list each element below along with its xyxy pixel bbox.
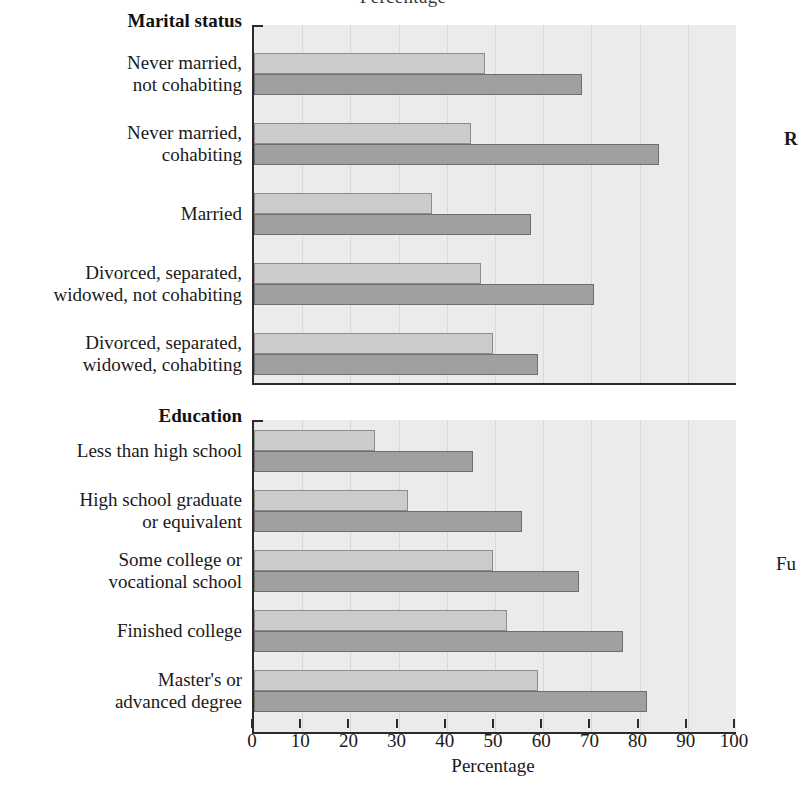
axis-tick-label: 100 — [704, 730, 764, 752]
bar-group — [254, 53, 736, 95]
category-label: Finished college — [0, 620, 242, 642]
category-label-line: Finished college — [0, 620, 242, 642]
bar-light — [254, 193, 432, 214]
category-label: Divorced, separated,widowed, not cohabit… — [0, 262, 242, 306]
axis-tick — [444, 719, 446, 728]
bar-light — [254, 263, 481, 284]
category-label-line: Master's or — [0, 669, 242, 691]
panel-heading-marital-status: Marital status — [0, 10, 242, 32]
bar-dark — [254, 631, 623, 652]
top-title-partial: Percentage — [0, 0, 806, 8]
bar-light — [254, 333, 493, 354]
bar-group — [254, 333, 736, 375]
bar-light — [254, 123, 471, 144]
category-label: Never married,cohabiting — [0, 122, 242, 166]
category-label-line: Married — [0, 203, 242, 225]
bar-dark — [254, 571, 579, 592]
plot-baseline — [254, 383, 736, 385]
bar-dark — [254, 74, 582, 95]
category-label-line: Divorced, separated, — [0, 332, 242, 354]
bar-dark — [254, 354, 538, 375]
bar-light — [254, 490, 408, 511]
category-label: Less than high school — [0, 440, 242, 462]
bar-dark — [254, 691, 647, 712]
axis-tick — [540, 719, 542, 728]
category-label-line: Divorced, separated, — [0, 262, 242, 284]
axis-corner-tick — [254, 25, 263, 27]
category-label-line: widowed, not cohabiting — [0, 284, 242, 306]
axis-corner-tick — [254, 420, 263, 422]
axis-tick — [492, 719, 494, 728]
bar-group — [254, 193, 736, 235]
bar-group — [254, 263, 736, 305]
bar-group — [254, 490, 736, 532]
category-label: High school graduateor equivalent — [0, 489, 242, 533]
bar-group — [254, 123, 736, 165]
category-label-line: widowed, cohabiting — [0, 354, 242, 376]
bar-dark — [254, 511, 522, 532]
bar-group — [254, 550, 736, 592]
axis-tick — [347, 719, 349, 728]
panel-education: Education Less than high schoolHigh scho… — [0, 405, 806, 735]
bar-dark — [254, 451, 473, 472]
bar-group — [254, 610, 736, 652]
category-label-line: vocational school — [0, 571, 242, 593]
category-label-line: not cohabiting — [0, 74, 242, 96]
category-label-line: High school graduate — [0, 489, 242, 511]
axis-tick — [685, 719, 687, 728]
bar-light — [254, 550, 493, 571]
panel-heading-education: Education — [0, 405, 242, 427]
bar-group — [254, 430, 736, 472]
category-label-line: Less than high school — [0, 440, 242, 462]
category-label: Never married,not cohabiting — [0, 52, 242, 96]
bar-group — [254, 670, 736, 712]
bar-dark — [254, 214, 531, 235]
axis-tick — [299, 719, 301, 728]
bar-dark — [254, 284, 594, 305]
bar-light — [254, 430, 375, 451]
plot-area-marital-status — [252, 25, 736, 385]
bar-dark — [254, 144, 659, 165]
category-label: Married — [0, 203, 242, 225]
category-label-line: advanced degree — [0, 691, 242, 713]
bar-light — [254, 670, 538, 691]
category-label: Master's oradvanced degree — [0, 669, 242, 713]
category-label: Some college orvocational school — [0, 549, 242, 593]
bar-light — [254, 610, 507, 631]
category-label: Divorced, separated,widowed, cohabiting — [0, 332, 242, 376]
category-label-line: cohabiting — [0, 144, 242, 166]
bar-light — [254, 53, 485, 74]
axis-tick — [733, 719, 735, 728]
category-label-line: Some college or — [0, 549, 242, 571]
axis-tick — [637, 719, 639, 728]
category-label-line: or equivalent — [0, 511, 242, 533]
panel-marital-status: Marital status Never married,not cohabit… — [0, 10, 806, 385]
axis-tick — [396, 719, 398, 728]
category-label-line: Never married, — [0, 52, 242, 74]
axis-tick — [588, 719, 590, 728]
axis-tick — [251, 719, 253, 728]
category-label-line: Never married, — [0, 122, 242, 144]
x-axis-title: Percentage — [252, 755, 734, 777]
plot-area-education — [252, 420, 736, 734]
